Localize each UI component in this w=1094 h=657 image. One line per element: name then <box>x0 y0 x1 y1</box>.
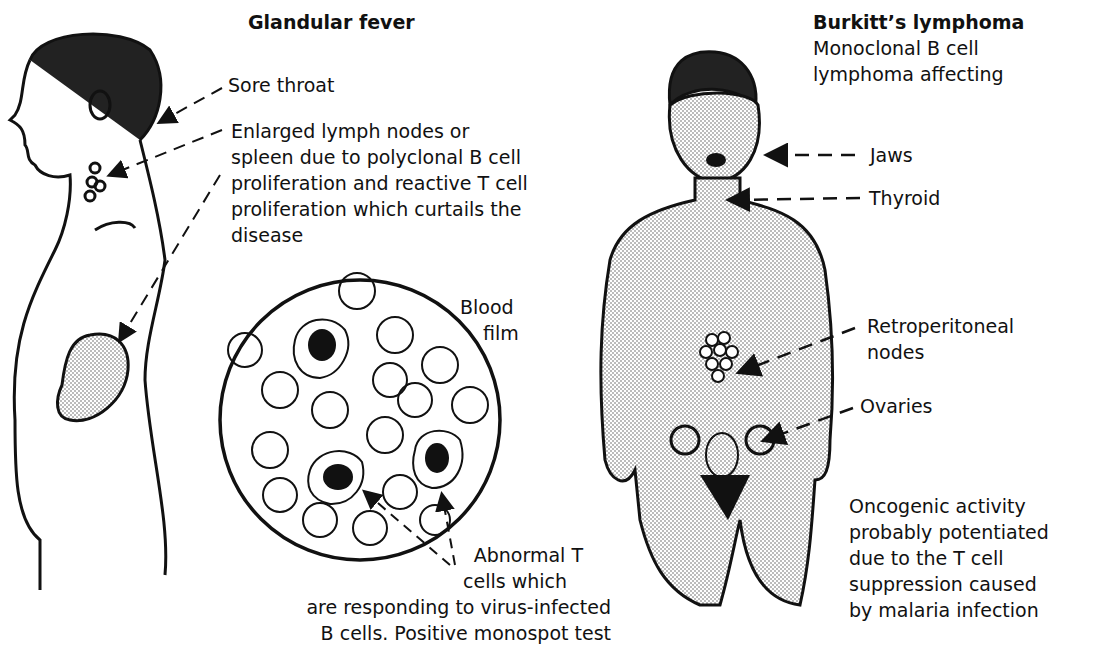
child-figure <box>601 52 833 605</box>
oncogenic-label: Oncogenic activity probably potentiated … <box>849 493 1049 623</box>
blood-film <box>220 273 500 560</box>
profile-figure <box>10 34 166 590</box>
sore-throat-label: Sore throat <box>228 72 334 98</box>
retroperitoneal-label: Retroperitoneal nodes <box>867 313 1014 365</box>
atypical-lymphocyte-nuclei <box>308 329 449 490</box>
spleen-shape <box>57 334 128 421</box>
mouth <box>706 153 726 167</box>
blood-film-label: Blood film <box>460 294 519 346</box>
burkitt-heading: Burkitt’s lymphoma Monoclonal B cell lym… <box>813 9 1024 87</box>
thyroid-label: Thyroid <box>869 185 940 211</box>
glandular-fever-title: Glandular fever <box>248 9 415 35</box>
jaws-label: Jaws <box>870 142 913 168</box>
abnormal-t-cells-label: Abnormal T cells which are responding to… <box>247 542 611 646</box>
lymph-nodes-label: Enlarged lymph nodes or spleen due to po… <box>231 118 528 248</box>
ovaries-label: Ovaries <box>860 393 933 419</box>
